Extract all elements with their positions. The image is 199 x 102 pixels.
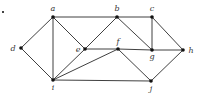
graph-diagram: abcdefghij	[0, 0, 199, 102]
edge-f-j	[118, 49, 151, 81]
edge-f-g	[118, 49, 152, 50]
stray-mark	[2, 11, 4, 13]
node-label-e: e	[76, 45, 81, 54]
node-label-a: a	[51, 4, 56, 13]
node-e	[83, 47, 87, 51]
node-j	[149, 79, 153, 83]
edge-d-i	[21, 48, 53, 80]
node-label-j: j	[148, 84, 153, 93]
node-f	[116, 47, 120, 51]
node-d	[19, 46, 23, 50]
edge-a-d	[21, 17, 53, 48]
edge-i-j	[53, 80, 151, 81]
edge-b-g	[117, 17, 152, 50]
node-a	[51, 15, 55, 19]
node-label-h: h	[188, 46, 193, 55]
node-label-i: i	[52, 83, 55, 92]
edge-j-h	[151, 50, 183, 81]
node-label-c: c	[150, 4, 155, 13]
node-label-f: f	[116, 37, 122, 46]
edge-f-i	[53, 49, 118, 80]
node-c	[150, 15, 154, 19]
edge-e-b	[85, 17, 117, 49]
node-b	[115, 15, 119, 19]
graph-edges	[21, 17, 183, 81]
node-label-b: b	[114, 4, 119, 13]
node-i	[51, 78, 55, 82]
edge-c-h	[152, 17, 183, 50]
node-h	[181, 48, 185, 52]
node-label-d: d	[10, 44, 15, 53]
node-label-g: g	[149, 52, 154, 61]
